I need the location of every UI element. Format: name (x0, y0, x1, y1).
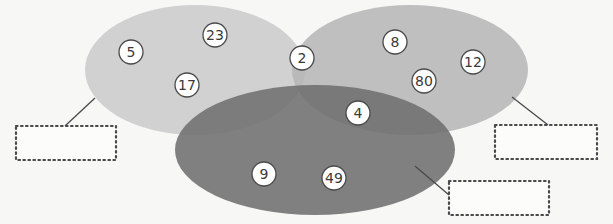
number-value: 49 (325, 170, 343, 186)
number-marker: 5 (119, 40, 143, 64)
number-marker: 9 (252, 162, 276, 186)
number-value: 80 (415, 73, 433, 89)
number-value: 23 (206, 27, 224, 43)
number-value: 2 (298, 50, 307, 66)
number-value: 5 (127, 44, 136, 60)
right-label-leader-line (512, 97, 548, 125)
set-bottom-ellipse (175, 85, 455, 215)
left-label-box[interactable] (16, 126, 116, 160)
number-marker: 4 (346, 101, 370, 125)
number-marker: 23 (203, 23, 227, 47)
number-marker: 12 (461, 50, 485, 74)
venn-diagram: 523172812804949 (0, 0, 613, 224)
number-marker: 17 (175, 73, 199, 97)
number-marker: 49 (322, 166, 346, 190)
number-value: 4 (354, 105, 363, 121)
number-value: 12 (464, 54, 482, 70)
bottom-label-box[interactable] (449, 181, 549, 215)
number-marker: 8 (383, 30, 407, 54)
number-marker: 2 (290, 46, 314, 70)
number-value: 17 (178, 77, 196, 93)
number-value: 8 (391, 34, 400, 50)
number-value: 9 (260, 166, 269, 182)
right-label-box[interactable] (495, 125, 597, 159)
number-marker: 80 (412, 69, 436, 93)
left-label-leader-line (65, 98, 95, 126)
